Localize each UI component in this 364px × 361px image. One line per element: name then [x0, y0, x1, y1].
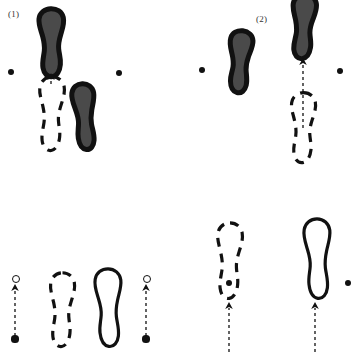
dot-panel1-right — [116, 70, 123, 77]
panel-label-1: (1) — [8, 9, 19, 19]
dot-panel3-left-bottom — [11, 335, 18, 342]
panel-label-2: (2) — [256, 14, 267, 24]
arrow-panel2-step — [295, 50, 311, 136]
arrow-panel1-step — [43, 65, 59, 92]
foot-solid-panel3-right — [88, 268, 128, 348]
arrow-panel4-right — [307, 294, 323, 360]
figure-canvas: (1)(2) — [0, 0, 364, 361]
dot-panel3-right-bottom — [142, 335, 149, 342]
arrow-panel3-right — [138, 276, 154, 344]
dot-panel4-right — [345, 280, 352, 287]
arrow-panel3-left — [7, 276, 23, 344]
dot-panel2-left — [199, 67, 206, 74]
arrow-panel4-left — [221, 294, 237, 360]
dot-panel1-left — [8, 69, 15, 76]
foot-dashed-panel3-left — [44, 272, 81, 348]
foot-dark-panel2-left — [219, 28, 260, 95]
dot-panel2-right — [337, 68, 344, 75]
foot-solid-panel4-right — [297, 218, 337, 300]
foot-dashed-panel4-left — [211, 222, 249, 300]
foot-dark-panel1-lower-right — [65, 82, 103, 152]
